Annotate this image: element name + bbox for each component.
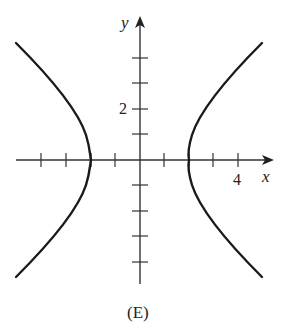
figure-caption: (E)	[127, 304, 149, 321]
y-axis-label: y	[121, 14, 129, 31]
x-tick-label-4: 4	[233, 172, 241, 188]
y-tick-label-2: 2	[119, 101, 127, 117]
hyperbola-graph	[0, 0, 297, 332]
x-axis-label: x	[262, 168, 270, 185]
